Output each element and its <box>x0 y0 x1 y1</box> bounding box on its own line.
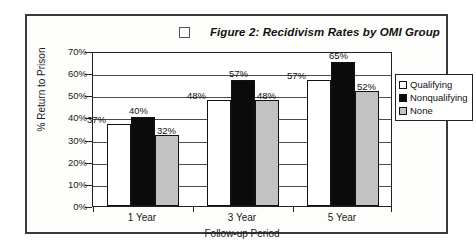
bar-nonqualifying <box>231 80 255 206</box>
legend-label: Nonqualifying <box>410 92 468 103</box>
legend-label: Qualifying <box>410 79 452 90</box>
y-tick-mark <box>85 74 92 75</box>
legend-swatch-nonqualifying-icon <box>399 94 407 102</box>
legend-item: Qualifying <box>399 78 468 91</box>
y-tick-mark <box>85 96 92 97</box>
legend-label: None <box>410 105 433 116</box>
y-tick-label: 10% <box>45 179 87 190</box>
bar-value-label: 40% <box>129 105 148 116</box>
plot-area: 37%40%32%48%57%48%57%65%52% <box>92 52 392 207</box>
x-tick-label: 3 Year <box>202 212 282 223</box>
y-tick-mark <box>85 207 92 208</box>
y-tick-mark <box>85 52 92 53</box>
bar-nonqualifying <box>131 117 155 206</box>
bar-value-label: 37% <box>87 114 106 125</box>
bar-value-label: 48% <box>187 90 206 101</box>
bar-value-label: 52% <box>357 81 376 92</box>
empty-checkbox-icon[interactable] <box>179 27 190 38</box>
y-tick-label: 50% <box>45 90 87 101</box>
y-tick-mark <box>85 185 92 186</box>
bar-none <box>255 100 279 206</box>
x-tick-mark <box>293 207 294 212</box>
y-tick-label: 0% <box>45 201 87 212</box>
x-tick-mark <box>193 207 194 212</box>
bar-none <box>155 135 179 206</box>
y-tick-mark <box>85 163 92 164</box>
legend-swatch-none-icon <box>399 107 407 115</box>
x-tick-label: 1 Year <box>102 212 182 223</box>
chart-legend: Qualifying Nonqualifying None <box>395 74 473 121</box>
bar-value-label: 32% <box>157 125 176 136</box>
bar-qualifying <box>207 100 231 206</box>
bar-qualifying <box>307 80 331 206</box>
page-title: Figure 2: Recidivism Rates by OMI Group <box>210 26 440 38</box>
legend-item: Nonqualifying <box>399 91 468 104</box>
bar-value-label: 57% <box>229 68 248 79</box>
x-tick-mark <box>93 207 94 212</box>
bar-value-label: 48% <box>257 90 276 101</box>
bar-value-label: 57% <box>287 70 306 81</box>
x-axis-label: Follow-up Period <box>92 228 392 239</box>
legend-swatch-qualifying-icon <box>399 81 407 89</box>
x-tick-label: 5 Year <box>302 212 382 223</box>
y-tick-label: 30% <box>45 135 87 146</box>
y-tick-label: 70% <box>45 46 87 57</box>
bar-value-label: 65% <box>329 50 348 61</box>
x-tick-mark <box>391 207 392 212</box>
figure-title-row: Figure 2: Recidivism Rates by OMI Group <box>27 22 446 42</box>
y-tick-mark <box>85 141 92 142</box>
bar-qualifying <box>107 124 131 206</box>
chart-area: % Return to Prison 0%10%20%30%40%50%60%7… <box>27 44 450 234</box>
y-tick-label: 60% <box>45 68 87 79</box>
y-tick-label: 20% <box>45 157 87 168</box>
bar-nonqualifying <box>331 62 355 206</box>
figure-frame: Figure 2: Recidivism Rates by OMI Group … <box>25 14 448 234</box>
y-tick-label: 40% <box>45 112 87 123</box>
legend-item: None <box>399 104 468 117</box>
bar-none <box>355 91 379 206</box>
